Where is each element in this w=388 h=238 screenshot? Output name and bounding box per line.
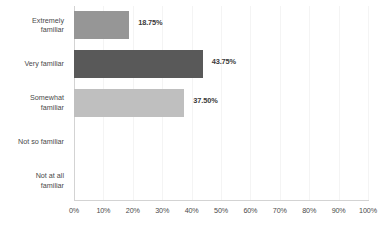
- x-tick-label: 10%: [88, 206, 118, 215]
- bar-row: 18.75%: [74, 6, 368, 45]
- x-tick-label: 70%: [265, 206, 295, 215]
- bar[interactable]: [74, 50, 203, 78]
- x-tick-label: 60%: [235, 206, 265, 215]
- x-axis-line: [74, 200, 369, 201]
- category-label: Extremelyfamiliar: [0, 16, 64, 35]
- x-tick-label: 20%: [118, 206, 148, 215]
- bar[interactable]: [74, 89, 184, 117]
- bar[interactable]: [74, 11, 129, 39]
- x-tick-label: 100%: [353, 206, 383, 215]
- bar-row: [74, 122, 368, 161]
- bar-value-label: 43.75%: [212, 57, 236, 66]
- bar-value-label: 37.50%: [193, 96, 217, 105]
- category-label: Somewhatfamiliar: [0, 93, 64, 112]
- x-tick-label: 40%: [177, 206, 207, 215]
- gridline: [368, 6, 369, 200]
- x-tick-label: 90%: [324, 206, 354, 215]
- y-axis-category-labels: ExtremelyfamiliarVery familiarSomewhatfa…: [0, 6, 68, 200]
- category-label: Very familiar: [0, 59, 64, 69]
- x-tick-label: 30%: [147, 206, 177, 215]
- bar-row: 43.75%: [74, 45, 368, 84]
- x-axis-tick-labels: 0%10%20%30%40%50%60%70%80%90%100%: [0, 206, 388, 220]
- category-label: Not so familiar: [0, 137, 64, 147]
- x-tick-label: 0%: [59, 206, 89, 215]
- bar-row: 37.50%: [74, 84, 368, 123]
- x-tick-label: 50%: [206, 206, 236, 215]
- bar-row: [74, 161, 368, 200]
- plot-area: 18.75%43.75%37.50%: [74, 6, 368, 200]
- x-tick-label: 80%: [294, 206, 324, 215]
- category-label: Not at allfamiliar: [0, 171, 64, 190]
- bar-value-label: 18.75%: [138, 18, 162, 27]
- bar-chart: 18.75%43.75%37.50% ExtremelyfamiliarVery…: [0, 0, 388, 238]
